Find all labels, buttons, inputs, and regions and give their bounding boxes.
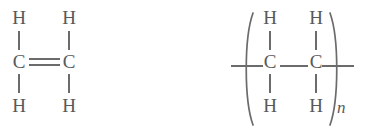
atom-label-carbon-left-repeat: C	[262, 52, 278, 71]
bond-terminal-left	[231, 65, 263, 67]
atom-label-hydrogen-top-left-repeat: H	[262, 8, 278, 27]
bond-vertical-c-left-h-bottom-repeat	[269, 74, 271, 93]
atom-label-hydrogen-top-right-repeat: H	[308, 8, 324, 27]
repeat-unit-subscript: n	[337, 99, 346, 116]
bond-single-carbon-carbon	[280, 65, 308, 67]
atom-label-hydrogen-bottom-left-repeat: H	[262, 96, 278, 115]
bond-terminal-right	[322, 65, 354, 67]
chemical-structure-figure: H H C C H H H H	[0, 0, 366, 138]
atom-label-carbon-right-repeat: C	[308, 52, 324, 71]
bond-vertical-c-right-h-top-repeat	[315, 31, 317, 50]
bond-vertical-c-right-h-bottom-repeat	[315, 74, 317, 93]
polyethylene-repeat-unit-structure: H H C C H H n	[0, 0, 366, 138]
atom-label-hydrogen-bottom-right-repeat: H	[308, 96, 324, 115]
bond-vertical-c-left-h-top-repeat	[269, 31, 271, 50]
